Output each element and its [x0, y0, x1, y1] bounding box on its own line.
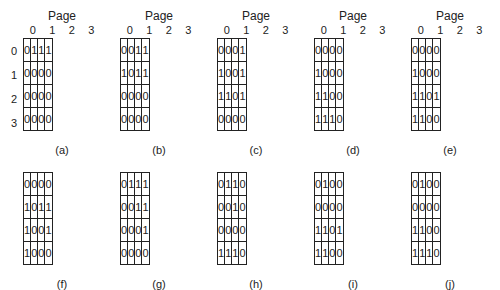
matrix-cell: 1	[419, 219, 426, 242]
matrix-cell: 0	[419, 39, 426, 62]
matrix-caption: (b)	[120, 144, 198, 156]
matrix-cell: 1	[322, 173, 329, 196]
matrix-caption: (j)	[411, 278, 489, 290]
matrix-row: 0001	[121, 219, 150, 242]
matrix-cell: 0	[315, 39, 322, 62]
matrix-cell: 0	[433, 62, 440, 85]
bit-matrix: 0000101110011000	[23, 172, 53, 265]
matrix-cell: 1	[412, 85, 419, 108]
matrix-cell: 1	[419, 173, 426, 196]
column-index: 0	[217, 24, 237, 36]
matrix-cell: 1	[322, 85, 329, 108]
matrix-cell: 1	[142, 173, 149, 196]
matrix-cell: 0	[218, 219, 225, 242]
bit-matrix: 0110001000001110	[217, 172, 247, 265]
matrix-row: 1110	[315, 108, 344, 131]
matrix-row: 0111	[24, 39, 53, 62]
matrix-cell: 1	[135, 173, 142, 196]
matrix-cell: 0	[433, 173, 440, 196]
matrix-cell: 1	[426, 242, 433, 265]
matrix-row: 0010	[218, 196, 247, 219]
matrix-row: 1000	[24, 242, 53, 265]
matrix-cell: 0	[419, 196, 426, 219]
matrix-cell: 0	[426, 85, 433, 108]
matrix-cell: 0	[128, 196, 135, 219]
matrix-row: 1011	[24, 196, 53, 219]
matrix-row: 0011	[121, 39, 150, 62]
matrix-cell: 1	[419, 85, 426, 108]
matrix-cell: 0	[142, 242, 149, 265]
column-index-labels: 0123	[411, 24, 489, 36]
matrix-cell: 0	[329, 85, 336, 108]
matrix-cell: 0	[433, 108, 440, 131]
matrix-cell: 1	[232, 196, 239, 219]
row-index: 2	[11, 87, 17, 111]
column-index: 3	[82, 24, 102, 36]
matrix-cell: 0	[239, 219, 246, 242]
matrix-row: 0000	[218, 108, 247, 131]
matrix-cell: 0	[239, 196, 246, 219]
column-index: 1	[431, 24, 451, 36]
matrix-cell: 1	[433, 85, 440, 108]
matrix-cell: 0	[121, 242, 128, 265]
matrix-cell: 1	[239, 85, 246, 108]
column-index: 0	[120, 24, 140, 36]
column-index: 1	[43, 24, 63, 36]
matrix-cell: 0	[336, 173, 343, 196]
matrix-cell: 0	[336, 62, 343, 85]
matrix-row: 0000	[24, 108, 53, 131]
page-axis-label: Page	[120, 9, 198, 23]
matrix-cell: 0	[239, 242, 246, 265]
matrix-cell: 0	[24, 62, 31, 85]
matrix-row: 1000	[412, 62, 441, 85]
matrix-cell: 0	[336, 108, 343, 131]
matrix-cell: 0	[322, 196, 329, 219]
matrix-cell: 0	[38, 242, 45, 265]
matrix-row: 0011	[121, 196, 150, 219]
matrix-row: 1101	[315, 219, 344, 242]
column-index: 2	[62, 24, 82, 36]
matrix-row: 1100	[315, 85, 344, 108]
matrix-cell: 1	[121, 62, 128, 85]
matrix-cell: 0	[38, 108, 45, 131]
matrix-cell: 0	[336, 196, 343, 219]
matrix-cell: 0	[128, 62, 135, 85]
matrix-cell: 1	[315, 219, 322, 242]
column-index: 1	[334, 24, 354, 36]
row-index: 0	[11, 39, 17, 63]
matrix-cell: 1	[322, 242, 329, 265]
matrix-cell: 0	[121, 173, 128, 196]
matrix-cell: 1	[128, 173, 135, 196]
matrix-cell: 0	[218, 39, 225, 62]
matrix-cell: 0	[315, 196, 322, 219]
column-index: 3	[373, 24, 393, 36]
matrix-cell: 1	[315, 62, 322, 85]
matrix-cell: 0	[322, 39, 329, 62]
matrix-cell: 0	[24, 108, 31, 131]
matrix-row: 1101	[218, 85, 247, 108]
matrix-cell: 1	[412, 219, 419, 242]
matrix-caption: (g)	[120, 278, 198, 290]
matrix-cell: 0	[329, 196, 336, 219]
column-index: 3	[470, 24, 490, 36]
matrix-cell: 1	[135, 62, 142, 85]
matrix-cell: 0	[225, 219, 232, 242]
matrix-cell: 1	[419, 108, 426, 131]
matrix-cell: 1	[412, 62, 419, 85]
matrix-cell: 1	[38, 196, 45, 219]
matrix-row: 0000	[24, 173, 53, 196]
matrix-cell: 0	[31, 219, 38, 242]
matrix-row: 0000	[121, 242, 150, 265]
column-index: 0	[23, 24, 43, 36]
matrix-cell: 0	[232, 219, 239, 242]
matrix-cell: 0	[218, 173, 225, 196]
matrix-cell: 0	[412, 196, 419, 219]
row-index: 1	[11, 63, 17, 87]
matrix-cell: 1	[135, 196, 142, 219]
matrix-cell: 0	[329, 39, 336, 62]
matrix-cell: 0	[45, 85, 52, 108]
page-axis-label: Page	[314, 9, 392, 23]
matrix-row: 0100	[315, 173, 344, 196]
matrix-cell: 1	[142, 196, 149, 219]
matrix-row: 0110	[218, 173, 247, 196]
